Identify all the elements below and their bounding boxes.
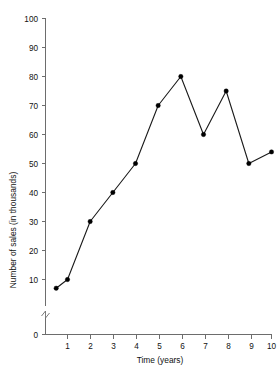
y-axis-tick-labels: 100 90 80 70 60 50 40 30 20 10 0: [24, 15, 38, 340]
x-axis-ticks: [68, 335, 272, 340]
data-point: [133, 161, 137, 165]
y-tick-label-90: 90: [29, 44, 39, 53]
data-point: [54, 286, 58, 290]
data-point: [111, 190, 115, 194]
x-tick-label-8: 8: [226, 342, 231, 351]
y-tick-label-0: 0: [33, 331, 38, 340]
data-point: [269, 150, 273, 154]
y-tick-label-30: 30: [29, 218, 39, 227]
y-axis: [42, 18, 50, 334]
data-point: [247, 161, 251, 165]
y-tick-label-10: 10: [29, 276, 39, 285]
series-line: [56, 77, 271, 289]
chart-canvas: 100 90 80 70 60 50 40 30 20 10 0 Number …: [0, 0, 280, 367]
x-axis-tick-labels: 1 2 3 4 5 6 7 8 9 10: [65, 342, 276, 351]
data-point: [224, 89, 228, 93]
data-point: [179, 74, 183, 78]
x-tick-label-9: 9: [249, 342, 254, 351]
series-markers: [54, 74, 274, 290]
line-chart: 100 90 80 70 60 50 40 30 20 10 0 Number …: [0, 0, 280, 367]
x-tick-label-5: 5: [157, 342, 162, 351]
x-tick-label-3: 3: [111, 342, 116, 351]
x-tick-label-4: 4: [134, 342, 139, 351]
x-tick-label-2: 2: [88, 342, 93, 351]
x-axis-title: Time (years): [137, 355, 184, 365]
data-series: [54, 74, 274, 290]
x-tick-label-10: 10: [267, 342, 277, 351]
data-point: [201, 132, 205, 136]
y-tick-label-40: 40: [29, 189, 39, 198]
y-tick-label-60: 60: [29, 131, 39, 140]
y-tick-label-20: 20: [29, 247, 39, 256]
data-point: [156, 103, 160, 107]
y-tick-label-70: 70: [29, 102, 39, 111]
y-tick-label-100: 100: [24, 15, 38, 24]
x-tick-label-6: 6: [180, 342, 185, 351]
x-tick-label-7: 7: [203, 342, 208, 351]
x-tick-label-1: 1: [65, 342, 70, 351]
data-point: [65, 277, 69, 281]
y-tick-label-50: 50: [29, 160, 39, 169]
y-axis-break-icon: [42, 311, 50, 318]
y-axis-ticks: [42, 19, 46, 335]
y-tick-label-80: 80: [29, 73, 39, 82]
y-axis-title: Number of sales (in thousands): [8, 172, 18, 289]
data-point: [88, 219, 92, 223]
